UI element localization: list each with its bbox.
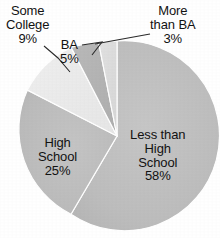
pie-label-some-college-line1: Some: [6, 4, 49, 18]
pie-label-high-school: High School 25%: [38, 136, 77, 177]
pie-label-high-school-value: 25%: [38, 164, 77, 178]
pie-chart-figure: Some College 9% BA 5% More than BA 3% Le…: [0, 0, 220, 238]
pie-label-ba-value: 5%: [60, 52, 79, 66]
pie-label-more-than-ba: More than BA 3%: [150, 4, 196, 45]
pie-label-ba: BA 5%: [60, 38, 79, 66]
pie-label-some-college-line2: College: [6, 18, 49, 32]
pie-label-ba-line1: BA: [60, 38, 79, 52]
pie-label-more-than-ba-value: 3%: [150, 32, 196, 46]
pie-label-more-than-ba-line2: than BA: [150, 18, 196, 32]
pie-label-high-school-line1: High: [38, 136, 77, 150]
pie-label-some-college-value: 9%: [6, 32, 49, 46]
pie-label-more-than-ba-line1: More: [150, 4, 196, 18]
pie-label-less-than-high-school-line1: Less than: [130, 128, 185, 142]
pie-label-less-than-high-school-line3: School: [130, 156, 185, 170]
pie-label-some-college: Some College 9%: [6, 4, 49, 45]
pie-label-less-than-high-school-line2: High: [130, 142, 185, 156]
pie-label-less-than-high-school: Less than High School 58%: [130, 128, 185, 183]
pie-label-less-than-high-school-value: 58%: [130, 169, 185, 183]
pie-label-high-school-line2: School: [38, 150, 77, 164]
